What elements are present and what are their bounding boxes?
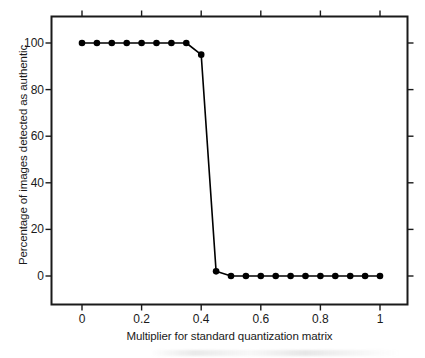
data-series-markers — [79, 40, 384, 280]
data-point — [302, 273, 309, 280]
data-point — [317, 273, 324, 280]
x-axis-tick-label: 0.8 — [295, 313, 345, 325]
data-point — [243, 273, 250, 280]
scan-artifact — [150, 350, 400, 356]
data-point — [94, 40, 101, 47]
data-point — [347, 273, 354, 280]
plot-frame — [52, 17, 408, 305]
x-axis-tick-label: 1 — [355, 313, 405, 325]
data-point — [332, 273, 339, 280]
data-point — [287, 273, 294, 280]
data-point — [272, 273, 279, 280]
data-point — [123, 40, 130, 47]
data-point — [183, 40, 190, 47]
data-point — [138, 40, 145, 47]
data-point — [153, 40, 160, 47]
chart-figure: 020406080100 00.20.40.60.81 Percentage o… — [0, 0, 425, 358]
plot-area — [0, 0, 425, 358]
data-point — [168, 40, 175, 47]
data-point — [228, 273, 235, 280]
data-series-line — [82, 43, 380, 276]
data-point — [377, 273, 384, 280]
y-axis-title: Percentage of images detected as authent… — [15, 10, 31, 300]
axis-tick-marks — [46, 11, 414, 311]
x-axis-tick-label: 0.4 — [176, 313, 226, 325]
data-point — [198, 51, 205, 58]
x-axis-tick-label: 0.6 — [236, 313, 286, 325]
x-axis-tick-label: 0.2 — [117, 313, 167, 325]
data-point — [362, 273, 369, 280]
data-point — [213, 268, 220, 275]
data-point — [109, 40, 116, 47]
x-axis-title: Multiplier for standard quantization mat… — [51, 330, 408, 342]
data-point — [258, 273, 265, 280]
data-point — [79, 40, 86, 47]
x-axis-tick-label: 0 — [57, 313, 107, 325]
